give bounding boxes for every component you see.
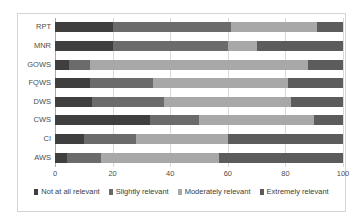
legend-item[interactable]: Slightly relevant [109, 188, 169, 196]
bar-segment[interactable] [308, 60, 343, 70]
bar-segment[interactable] [55, 78, 90, 88]
x-axis-tick-label: 80 [281, 170, 289, 178]
legend-item[interactable]: Not at all relevant [34, 188, 99, 196]
bar-row[interactable] [55, 22, 343, 32]
bar-row[interactable] [55, 97, 343, 107]
bar-segment[interactable] [69, 60, 89, 70]
bar-segment[interactable] [317, 22, 343, 32]
y-axis-tick-label: GOWS [27, 61, 51, 69]
bar-segment[interactable] [90, 78, 153, 88]
bar-segment[interactable] [113, 22, 231, 32]
bar-segment[interactable] [150, 115, 199, 125]
legend-item[interactable]: Moderately relevant [178, 188, 251, 196]
bar-segment[interactable] [164, 97, 291, 107]
chart-legend: Not at all relevantSlightly relevantMode… [17, 188, 346, 196]
bar-row[interactable] [55, 115, 343, 125]
x-axis-tick-label: 100 [337, 170, 350, 178]
legend-label: Slightly relevant [116, 188, 169, 196]
bar-segment[interactable] [228, 41, 257, 51]
bar-segment[interactable] [314, 115, 343, 125]
x-axis-labels: 020406080100 [55, 170, 343, 182]
x-axis-tick-label: 0 [53, 170, 57, 178]
plot-area [55, 18, 343, 167]
bar-segment[interactable] [55, 115, 150, 125]
bar-segment[interactable] [55, 153, 67, 163]
bar-segment[interactable] [136, 134, 228, 144]
bar-segment[interactable] [101, 153, 219, 163]
bar-segment[interactable] [55, 41, 113, 51]
legend-swatch-icon [109, 189, 113, 195]
bar-segment[interactable] [228, 134, 343, 144]
bar-segment[interactable] [90, 60, 309, 70]
bar-segment[interactable] [288, 78, 343, 88]
bar-segment[interactable] [67, 153, 102, 163]
x-axis-tick-label: 60 [224, 170, 232, 178]
bar-segment[interactable] [84, 134, 136, 144]
y-axis-tick-label: MNR [34, 42, 51, 50]
bar-segment[interactable] [219, 153, 343, 163]
bar-segment[interactable] [257, 41, 343, 51]
bar-row[interactable] [55, 153, 343, 163]
bar-row[interactable] [55, 60, 343, 70]
y-axis-labels: RPTMNRGOWSFQWSDWSCWSCIAWS [17, 18, 55, 167]
bar-row[interactable] [55, 134, 343, 144]
x-axis-tick-label: 20 [108, 170, 116, 178]
bar-segment[interactable] [55, 134, 84, 144]
bar-segment[interactable] [55, 60, 69, 70]
bar-segment[interactable] [153, 78, 288, 88]
legend-label: Moderately relevant [185, 188, 251, 196]
bar-segment[interactable] [113, 41, 228, 51]
chart-container: RPTMNRGOWSFQWSDWSCWSCIAWS 020406080100 N… [0, 0, 363, 223]
legend-label: Extremely relevant [267, 188, 329, 196]
x-axis-tick-label: 40 [166, 170, 174, 178]
y-axis-tick-label: FQWS [29, 79, 52, 87]
legend-label: Not at all relevant [41, 188, 99, 196]
bar-row[interactable] [55, 78, 343, 88]
bar-row[interactable] [55, 41, 343, 51]
bar-segment[interactable] [291, 97, 343, 107]
bar-segment[interactable] [55, 97, 92, 107]
bar-rows [55, 18, 343, 167]
legend-swatch-icon [34, 189, 38, 195]
y-axis-tick-label: RPT [36, 23, 51, 31]
bar-segment[interactable] [55, 22, 113, 32]
bar-segment[interactable] [199, 115, 314, 125]
legend-swatch-icon [260, 189, 264, 195]
y-axis-tick-label: DWS [34, 98, 52, 106]
y-axis-tick-label: CWS [34, 116, 52, 124]
y-axis-tick-label: AWS [34, 154, 51, 162]
legend-swatch-icon [178, 189, 182, 195]
legend-item[interactable]: Extremely relevant [260, 188, 329, 196]
bar-segment[interactable] [231, 22, 317, 32]
bar-segment[interactable] [92, 97, 164, 107]
y-axis-tick-label: CI [44, 135, 52, 143]
